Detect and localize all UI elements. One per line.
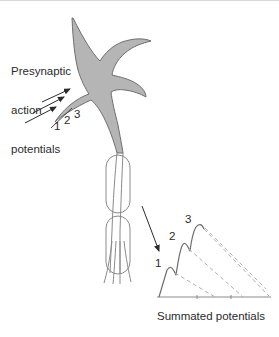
presynaptic-label-line-3: potentials <box>11 143 71 156</box>
decay-dashed-3 <box>204 229 269 296</box>
neuron-summation-figure: Presynaptic action potentials 1 2 3 1 2 … <box>0 0 279 337</box>
decay-dashed-2 <box>189 249 243 297</box>
summated-potential-trace <box>159 225 204 297</box>
arrow-number-2: 2 <box>64 114 70 126</box>
peak-number-1: 1 <box>155 257 161 269</box>
decay-dashed-1 <box>175 273 215 297</box>
myelin-segment-1 <box>106 155 130 213</box>
presynaptic-label: Presynaptic action potentials <box>11 39 71 182</box>
graph-pointer-arrow <box>142 206 159 251</box>
graph-caption: Summated potentials <box>157 310 265 323</box>
presynaptic-label-line-2: action <box>11 104 71 117</box>
arrow-number-1: 1 <box>54 120 60 132</box>
arrow-number-3: 3 <box>74 108 80 120</box>
presynaptic-label-line-1: Presynaptic <box>11 65 71 78</box>
decay-dashed-envelope <box>205 228 266 289</box>
peak-number-2: 2 <box>169 230 175 242</box>
peak-number-3: 3 <box>185 213 191 225</box>
myelin-segment-2 <box>106 216 130 274</box>
